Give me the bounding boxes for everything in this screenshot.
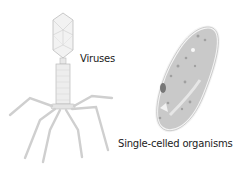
single-celled-label: Single-celled organisms bbox=[118, 138, 232, 149]
paramecium-illustration bbox=[157, 27, 219, 131]
virus-illustration bbox=[10, 13, 112, 162]
virus-label: Viruses bbox=[80, 53, 115, 64]
